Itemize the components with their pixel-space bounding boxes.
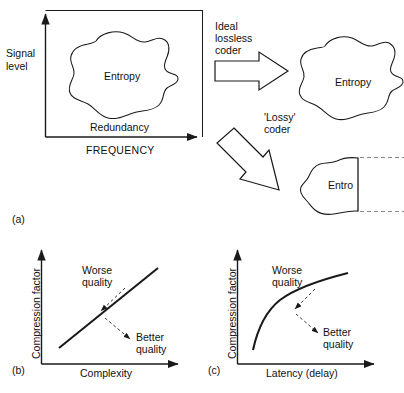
lossy-coder-label-line1: 'Lossy' [264,111,295,124]
lossless-result-entropy-label: Entropy [335,76,371,89]
panel-tag-b: (b) [12,364,25,376]
panel-tag-c: (c) [208,364,220,376]
panel-b-better-quality-arrow [105,318,130,339]
panel-c-better-quality-label-line2: quality [323,338,353,351]
panel-c-y-axis-label: Compression factor [226,268,238,359]
source-blob-redundancy-label: Redundancy [90,121,149,134]
panel-b-worse-quality-arrow [101,288,125,311]
lossy-coder-arrow [217,128,279,190]
panel-a-y-axis-label-line2: level [6,60,28,73]
lossless-coder-label-line1: Ideal [215,20,238,33]
panel-b-worse-quality-label-line1: Worse [82,264,112,277]
panel-tag-a: (a) [12,213,25,225]
panel-b-x-axis-label: Complexity [80,367,132,380]
panel-c-worse-quality-label-line2: quality [272,276,302,289]
panel-c-axes [238,250,375,364]
lossless-coder-label-line3: coder [215,44,241,57]
panel-c-x-axis-label: Latency (delay) [266,367,338,380]
panel-b-y-axis-label: Compression factor [30,268,42,359]
panel-b-worse-quality-label-line2: quality [82,276,112,289]
lossless-coder-label-line2: lossless [215,32,252,45]
figure-container: Signal level Entropy Redundancy FREQUENC… [0,0,404,393]
panel-a-y-axis-label-line1: Signal [6,47,35,60]
panel-c-better-quality-label-line1: Better [323,326,351,339]
panel-c-worse-quality-arrow [295,289,315,309]
lossy-result-entropy-label: Entro [328,179,353,192]
panel-b-better-quality-label-line1: Better [136,331,164,344]
lossless-coder-arrow [215,52,288,90]
lossy-coder-label-line2: coder [264,123,290,136]
panel-b-better-quality-label-line2: quality [136,343,166,356]
source-blob-entropy-label: Entropy [104,70,140,83]
panel-a-x-axis-label: FREQUENCY [86,144,155,156]
panel-c-worse-quality-label-line1: Worse [272,264,302,277]
panel-c-better-quality-arrow [296,314,318,333]
